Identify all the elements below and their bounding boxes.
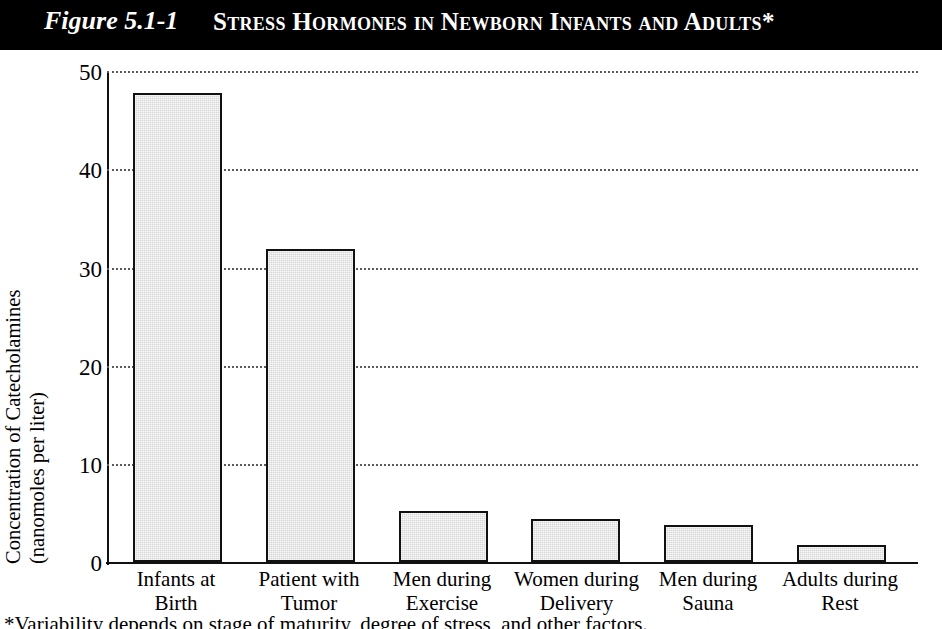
x-label-line-2: Tumor xyxy=(236,592,382,616)
x-label-patient-with-tumor: Patient with Tumor xyxy=(236,568,382,615)
y-tick-label-20: 20 xyxy=(60,356,102,379)
x-label-line-1: Women during xyxy=(499,568,654,592)
plot-area xyxy=(107,70,918,565)
x-label-men-during-exercise: Men during Exercise xyxy=(369,568,515,615)
x-label-infants-at-birth: Infants at Birth xyxy=(103,568,249,615)
x-label-line-1: Adults during xyxy=(764,568,916,592)
y-tick-label-0: 0 xyxy=(60,552,102,575)
x-label-line-1: Men during xyxy=(635,568,781,592)
x-label-line-1: Patient with xyxy=(236,568,382,592)
y-tick-label-50: 50 xyxy=(60,61,102,84)
figure-footnote: *Variability depends on stage of maturit… xyxy=(4,614,934,629)
y-axis-title-line-1: Concentration of Catecholamines xyxy=(2,74,26,564)
gridline-40 xyxy=(107,169,918,171)
bar-infants-at-birth xyxy=(133,93,222,562)
x-label-line-2: Birth xyxy=(103,592,249,616)
y-tick-label-30: 30 xyxy=(60,258,102,281)
bar-chart: Concentration of Catecholamines (nanomol… xyxy=(0,50,942,629)
y-tick-label-40: 40 xyxy=(60,159,102,182)
figure-number-label: Figure 5.1-1 xyxy=(44,6,178,36)
x-label-line-1: Men during xyxy=(369,568,515,592)
y-axis-title-line-2: (nanomoles per liter) xyxy=(26,74,50,564)
x-label-line-2: Exercise xyxy=(369,592,515,616)
gridline-20 xyxy=(107,366,918,368)
bar-adults-during-rest xyxy=(797,545,886,562)
x-label-line-1: Infants at xyxy=(103,568,249,592)
gridline-10 xyxy=(107,464,918,466)
x-label-line-2: Rest xyxy=(764,592,916,616)
x-label-men-during-sauna: Men during Sauna xyxy=(635,568,781,615)
bar-patient-with-tumor xyxy=(266,249,355,562)
bar-men-during-sauna xyxy=(664,525,753,562)
y-axis-tick-labels: 50 40 30 20 10 0 xyxy=(50,50,102,590)
x-label-women-during-delivery: Women during Delivery xyxy=(499,568,654,615)
bar-women-during-delivery xyxy=(531,519,620,562)
figure-title-band: Figure 5.1-1 Stress Hormones in Newborn … xyxy=(0,0,942,50)
x-label-line-2: Delivery xyxy=(499,592,654,616)
gridline-50 xyxy=(107,71,918,73)
gridline-30 xyxy=(107,268,918,270)
x-label-adults-during-rest: Adults during Rest xyxy=(764,568,916,615)
x-label-line-2: Sauna xyxy=(635,592,781,616)
figure-title-label: Stress Hormones in Newborn Infants and A… xyxy=(213,8,775,36)
bar-men-during-exercise xyxy=(399,511,488,562)
y-tick-label-10: 10 xyxy=(60,454,102,477)
